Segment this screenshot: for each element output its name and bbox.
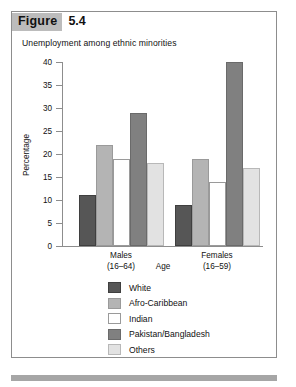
legend-swatch [108, 329, 121, 340]
bar-group [175, 62, 260, 246]
x-axis-category-label: Females(16–59) [175, 251, 259, 272]
y-axis-tick-label: 40 [22, 58, 52, 67]
y-axis-tick [56, 200, 62, 201]
y-axis-tick-label: 5 [22, 219, 52, 228]
y-axis-tick [56, 85, 62, 86]
y-axis-tick [56, 108, 62, 109]
y-axis-tick-label: 35 [22, 81, 52, 90]
y-axis-tick-label: 0 [22, 242, 52, 251]
figure-header: Figure 5.4 [12, 12, 86, 31]
x-axis-label: Age [143, 262, 183, 273]
legend-label: Pakistan/Bangladesh [129, 329, 210, 339]
bar [130, 113, 147, 246]
x-axis-category-label-line: Males [79, 251, 163, 262]
bar [113, 159, 130, 246]
legend-label: White [129, 283, 151, 293]
bar [96, 145, 113, 246]
y-axis-tick-label: 30 [22, 104, 52, 113]
y-axis-tick [56, 223, 62, 224]
bar [243, 168, 260, 246]
y-axis-tick-label: 15 [22, 173, 52, 182]
x-axis-line [62, 246, 263, 247]
figure-page: Figure 5.4 Unemployment among ethnic min… [0, 0, 296, 387]
bar [192, 159, 209, 246]
y-axis-tick-label: 20 [22, 150, 52, 159]
chart-title: Unemployment among ethnic minorities [22, 38, 177, 48]
y-axis-tick [56, 154, 62, 155]
chart-legend: WhiteAfro-CaribbeanIndianPakistan/Bangla… [108, 280, 210, 358]
legend-swatch [108, 313, 121, 324]
x-axis-category-label-line: Females [175, 251, 259, 262]
legend-swatch [108, 282, 121, 293]
legend-item: Afro-Caribbean [108, 296, 210, 312]
bar [209, 182, 226, 246]
y-axis-tick [56, 246, 62, 247]
legend-swatch [108, 344, 121, 355]
bar [147, 163, 164, 246]
y-axis-tick-label: 10 [22, 196, 52, 205]
x-axis-category-label-line: (16–59) [175, 262, 259, 273]
bar [226, 62, 243, 246]
legend-label: Others [129, 345, 155, 355]
bar [175, 205, 192, 246]
legend-swatch [108, 298, 121, 309]
legend-item: Pakistan/Bangladesh [108, 327, 210, 343]
legend-label: Indian [129, 314, 152, 324]
legend-label: Afro-Caribbean [129, 298, 187, 308]
y-axis-tick [56, 177, 62, 178]
y-axis-tick [56, 131, 62, 132]
bar-group [79, 62, 164, 246]
legend-item: Others [108, 342, 210, 358]
y-axis-tick [56, 62, 62, 63]
y-axis-tick-label: 25 [22, 127, 52, 136]
chart-plot-area: Percentage 0510152025303540 Males(16–64)… [22, 56, 268, 271]
figure-number: 5.4 [62, 14, 85, 29]
bar [79, 195, 96, 246]
legend-item: White [108, 280, 210, 296]
figure-card: Figure 5.4 Unemployment among ethnic min… [11, 11, 277, 358]
figure-tag-label: Figure [12, 13, 62, 31]
page-footer-rule [11, 375, 277, 381]
legend-item: Indian [108, 311, 210, 327]
bar-series-container [63, 62, 263, 246]
